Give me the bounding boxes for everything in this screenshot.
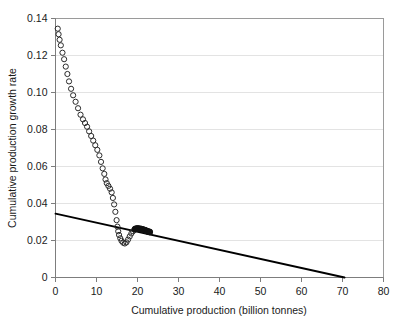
svg-text:0: 0 <box>53 285 59 297</box>
chart-container: 01020304050607080 00.020.040.060.080.100… <box>0 0 408 326</box>
svg-text:60: 60 <box>296 285 308 297</box>
plot-frame <box>56 19 384 278</box>
svg-text:70: 70 <box>337 285 349 297</box>
scatter-plot: 01020304050607080 00.020.040.060.080.100… <box>0 0 408 326</box>
svg-text:40: 40 <box>214 285 226 297</box>
svg-text:0.06: 0.06 <box>27 160 48 172</box>
svg-text:30: 30 <box>173 285 185 297</box>
x-axis-ticks <box>56 278 384 283</box>
x-axis-tick-labels: 01020304050607080 <box>53 285 390 297</box>
y-axis-ticks <box>51 19 56 278</box>
svg-text:0.04: 0.04 <box>27 197 48 209</box>
svg-text:0.14: 0.14 <box>27 12 48 24</box>
svg-text:80: 80 <box>378 285 390 297</box>
x-axis-title: Cumulative production (billion tonnes) <box>131 304 307 316</box>
trend-line <box>56 214 345 278</box>
gridlines <box>56 56 384 241</box>
y-axis-title: Cumulative production growth rate <box>6 68 18 228</box>
svg-text:0.12: 0.12 <box>27 49 48 61</box>
svg-text:0: 0 <box>42 271 48 283</box>
svg-text:50: 50 <box>255 285 267 297</box>
svg-text:0.02: 0.02 <box>27 234 48 246</box>
svg-text:20: 20 <box>132 285 144 297</box>
svg-text:10: 10 <box>91 285 103 297</box>
svg-text:0.10: 0.10 <box>27 86 48 98</box>
data-points-open <box>55 26 137 246</box>
y-axis-tick-labels: 00.020.040.060.080.100.120.14 <box>27 12 48 283</box>
svg-text:0.08: 0.08 <box>27 123 48 135</box>
